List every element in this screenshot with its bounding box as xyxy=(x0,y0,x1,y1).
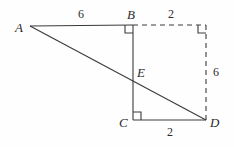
segment-AB xyxy=(30,25,133,26)
length-B-topright-label: 2 xyxy=(168,8,174,20)
right-angle-at-top-right xyxy=(198,25,206,33)
geometry-figure: ABECD6262 xyxy=(0,0,234,147)
vertex-label-B: B xyxy=(127,8,135,21)
length-topright-D-label: 6 xyxy=(213,66,219,78)
right-angle-at-B xyxy=(125,25,133,33)
vertex-label-E: E xyxy=(137,66,145,79)
vertex-label-C: C xyxy=(119,116,128,129)
vertex-label-D: D xyxy=(210,116,219,129)
length-AB-label: 6 xyxy=(78,8,84,20)
diagram-canvas xyxy=(0,0,234,147)
vertex-label-A: A xyxy=(15,21,23,34)
right-angle-at-C xyxy=(133,112,141,120)
length-CD-label: 2 xyxy=(167,126,173,138)
segment-AD xyxy=(30,26,206,120)
